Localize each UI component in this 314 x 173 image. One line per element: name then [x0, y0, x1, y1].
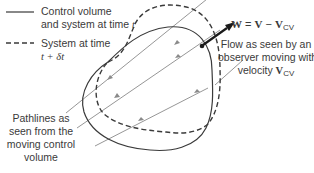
flow-line1: Flow as seen by an	[218, 38, 314, 51]
equation-label: W = V − VCV	[231, 18, 294, 34]
flow-line2: observer moving with	[218, 51, 314, 64]
eq-equals: =	[242, 18, 255, 30]
pathlines-line2: seen from the	[4, 125, 78, 138]
eq-minus: −	[263, 18, 276, 30]
eq-v: V	[255, 18, 263, 30]
flow-sub: CV	[283, 69, 294, 78]
legend-solid-text: and system at time	[41, 18, 129, 30]
arrowhead-icon	[174, 40, 180, 45]
pathlines-line3: moving control	[4, 138, 78, 151]
flow-label: Flow as seen by an observer moving with …	[218, 38, 314, 80]
flow-line3: velocity VCV	[218, 64, 314, 80]
pathlines-label: Pathlines as seen from the moving contro…	[4, 112, 78, 164]
arrowhead-icon	[114, 93, 120, 98]
legend-dashed-var: t + δt	[41, 50, 110, 63]
legend-solid-line1: Control volume	[41, 5, 135, 18]
eq-sub: CV	[283, 23, 294, 32]
point-marker	[200, 44, 205, 49]
eq-w: W	[231, 18, 242, 30]
arrowhead-icon	[138, 117, 144, 121]
legend-dashed-line1: System at time	[41, 37, 110, 50]
legend-solid-line2: and system at time t	[41, 18, 135, 31]
eq-vcv: V	[275, 18, 283, 30]
pathlines-line4: volume	[4, 151, 78, 164]
flow-line3-text: velocity	[238, 64, 276, 76]
pathline-3	[95, 88, 208, 146]
legend-solid-label: Control volume and system at time t	[41, 5, 135, 31]
legend-solid-var: t	[132, 19, 135, 30]
legend-dashed-label: System at time t + δt	[41, 37, 110, 63]
pathlines-line1: Pathlines as	[4, 112, 78, 125]
